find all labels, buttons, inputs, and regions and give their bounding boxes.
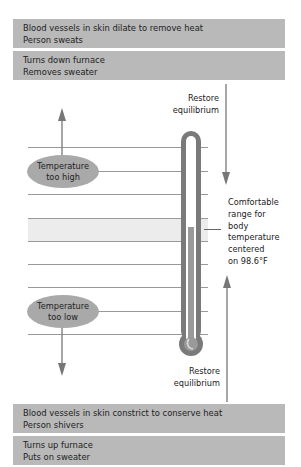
thermometer-icon — [179, 131, 203, 356]
label-line: Comfortable — [228, 197, 279, 209]
ellipse-text: Temperature — [27, 301, 99, 312]
restore-down-arrow — [222, 84, 230, 185]
label-line: temperature — [228, 232, 279, 244]
restore-equilibrium-top-label: Restore equilibrium — [150, 93, 219, 116]
label-line: equilibrium — [150, 105, 219, 117]
restore-up-arrow — [223, 275, 231, 402]
label-line: Restore — [150, 93, 219, 105]
cold-response-body-box: Blood vessels in skin constrict to conse… — [13, 404, 285, 433]
box-text-line: Turns up furnace — [23, 439, 285, 451]
label-line: on 98.6°F — [228, 256, 279, 268]
ellipse-text: Temperature — [27, 161, 99, 172]
label-line: body — [228, 221, 279, 233]
box-text-line: Person shivers — [23, 419, 285, 431]
label-line: centered — [228, 244, 279, 256]
cold-response-house-box: Turns up furnace Puts on sweater — [13, 436, 285, 465]
label-line: Restore — [150, 366, 220, 378]
temperature-too-low-ellipse: Temperature too low — [27, 295, 99, 328]
label-line: equilibrium — [150, 378, 220, 390]
box-text-line: Blood vessels in skin constrict to conse… — [23, 407, 285, 419]
falling-temperature-arrow — [58, 325, 66, 376]
ellipse-text: too low — [27, 312, 99, 323]
restore-equilibrium-bottom-label: Restore equilibrium — [150, 366, 220, 389]
temperature-too-high-ellipse: Temperature too high — [27, 155, 99, 188]
label-line: range for — [228, 209, 279, 221]
ellipse-text: too high — [27, 172, 99, 183]
comfortable-range-label: Comfortable range for body temperature c… — [228, 197, 279, 268]
box-text-line: Puts on sweater — [23, 451, 285, 463]
